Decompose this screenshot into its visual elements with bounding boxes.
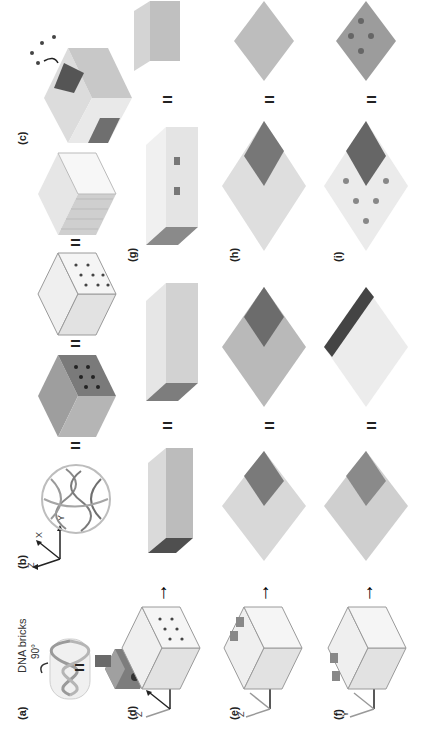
equals-sign: = bbox=[366, 417, 376, 435]
axis-z-b: Z bbox=[26, 563, 36, 569]
prism-striped bbox=[132, 271, 204, 411]
prism-g-expanded bbox=[120, 1, 210, 151]
slab-hex bbox=[316, 277, 416, 417]
equals-sign: = bbox=[264, 417, 274, 435]
slab-h-expanded bbox=[214, 1, 314, 141]
up-arrow-e: ↑ bbox=[261, 580, 271, 603]
dna-bricks-text: DNA bricks bbox=[16, 619, 28, 673]
equals-sign: = bbox=[70, 335, 80, 353]
lattice-cube-f bbox=[326, 605, 408, 691]
tangled-strands-structure bbox=[36, 459, 116, 539]
axis-y-f: Y bbox=[340, 711, 350, 717]
colored-brick-cube bbox=[36, 353, 118, 439]
slab-striped bbox=[214, 277, 314, 417]
panel-label-a: (a) bbox=[16, 707, 28, 720]
slab-i-expanded bbox=[316, 1, 416, 141]
axis-z-d: Z bbox=[134, 712, 144, 718]
up-arrow-f: ↑ bbox=[365, 580, 375, 603]
equals-sign: = bbox=[162, 417, 172, 435]
self-assembly-cube bbox=[24, 33, 134, 143]
lattice-cube-d bbox=[120, 605, 202, 691]
dna-helix-bundle-icon bbox=[40, 633, 100, 703]
slab-f-result bbox=[316, 441, 416, 571]
axis-z-e: Z bbox=[236, 712, 246, 718]
prism-d-result bbox=[138, 443, 198, 563]
lattice-cube-e bbox=[222, 605, 304, 691]
slab-e-result bbox=[214, 441, 314, 571]
equals-sign: = bbox=[70, 437, 80, 455]
equals-sign: = bbox=[74, 659, 84, 677]
figure-stage: (a) DNA bricks 90° = (b) Z X Y = bbox=[0, 0, 432, 751]
up-arrow-d: ↑ bbox=[159, 580, 169, 603]
lattice-cube bbox=[36, 251, 118, 337]
helix-bundle-cube bbox=[36, 151, 118, 237]
